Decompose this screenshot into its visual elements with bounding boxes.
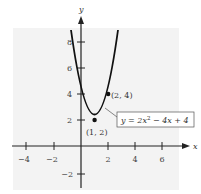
point-2-4	[106, 92, 110, 96]
parabola-graph: x y −4 −2 2 4 6 −2 2 4 6 8 (1, 2) (2, 4)	[0, 0, 201, 194]
svg-text:2: 2	[105, 155, 110, 164]
plot-background	[13, 28, 179, 190]
vertex-label: (1, 2)	[86, 128, 108, 137]
svg-text:6: 6	[67, 64, 72, 73]
svg-text:4: 4	[67, 90, 72, 99]
y-axis-arrow-icon	[78, 16, 84, 24]
y-axis-label: y	[78, 5, 84, 14]
svg-text:4: 4	[132, 155, 137, 164]
svg-text:8: 8	[67, 38, 72, 47]
x-axis-label: x	[193, 142, 198, 151]
svg-text:−2: −2	[61, 170, 73, 179]
svg-text:−2: −2	[46, 155, 58, 164]
x-axis-arrow-icon	[182, 143, 190, 149]
point-label: (2, 4)	[111, 91, 133, 100]
vertex-point	[92, 118, 96, 122]
equation-label: y = 2x2 − 4x + 4	[120, 115, 189, 125]
svg-text:6: 6	[159, 155, 164, 164]
svg-text:2: 2	[67, 116, 72, 125]
svg-text:−4: −4	[18, 155, 30, 164]
